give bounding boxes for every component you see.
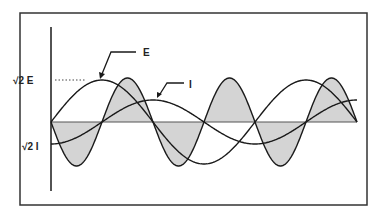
i-curve-label: I — [189, 79, 192, 90]
sqrt2-e-label: √2 E — [13, 75, 34, 86]
e-leader-arrowhead-icon — [99, 72, 105, 79]
ac-power-waveform-diagram: E I √2 E √2 I — [0, 0, 383, 218]
e-curve-label: E — [143, 47, 150, 58]
i-leader-line — [160, 83, 184, 94]
sqrt2-i-label: √2 I — [22, 141, 39, 152]
e-leader-line — [102, 52, 136, 74]
